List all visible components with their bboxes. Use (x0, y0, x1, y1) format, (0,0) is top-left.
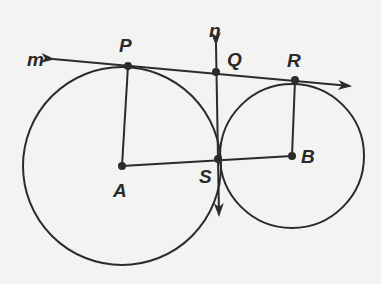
point-R-label: R (287, 50, 301, 71)
point-B (288, 152, 296, 160)
point-A-label: A (112, 180, 127, 201)
point-B-label: B (301, 146, 315, 167)
point-P (124, 62, 132, 70)
line-m (53, 59, 350, 86)
line-m-label: m (27, 49, 44, 70)
point-S (214, 155, 222, 163)
point-A (118, 162, 126, 170)
labels: mnPQRASB (27, 20, 315, 201)
point-S-label: S (199, 166, 212, 187)
point-Q (212, 68, 220, 76)
point-R (291, 76, 299, 84)
diagram-svg: mnPQRASB (0, 0, 381, 284)
geometry-diagram: mnPQRASB (0, 0, 381, 284)
point-Q-label: Q (227, 49, 242, 70)
line-n-label: n (209, 20, 221, 41)
segment-PA (122, 66, 128, 166)
segment-AB (122, 156, 292, 166)
point-P-label: P (119, 35, 132, 56)
segment-RB (292, 80, 295, 156)
